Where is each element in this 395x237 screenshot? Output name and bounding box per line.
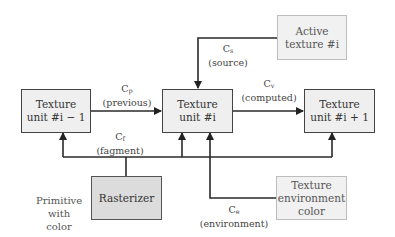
box-label-line2: unit #i + 1	[310, 111, 369, 124]
box-label-line1: Active	[285, 25, 339, 38]
description: (fagment)	[96, 145, 143, 156]
box-label-line1: Texture	[177, 98, 218, 111]
label-previous: Cp (previous)	[98, 83, 156, 109]
subscript: e	[236, 208, 240, 216]
box-label-line3: color	[278, 205, 346, 218]
symbol: C	[264, 78, 271, 89]
note-line2: with color	[36, 207, 82, 233]
texture-environment-color-box: Texture environment color	[276, 176, 347, 220]
texture-unit-previous-box: Texture unit #i − 1	[21, 89, 91, 133]
texture-unit-current-box: Texture unit #i	[162, 89, 233, 133]
rasterizer-box: Rasterizer	[91, 176, 162, 220]
box-label-line2: environment	[278, 192, 346, 205]
box-label-line1: Texture	[310, 98, 369, 111]
description: (previous)	[103, 97, 152, 108]
symbol: C	[121, 83, 128, 94]
label-computed: Cv (computed)	[238, 78, 300, 104]
symbol: C	[223, 43, 230, 54]
label-environment: Ce (environment)	[198, 204, 270, 230]
box-label-line1: Texture	[278, 179, 346, 192]
symbol: C	[228, 204, 235, 215]
texture-pipeline-diagram: Texture unit #i − 1 Texture unit #i Text…	[0, 0, 395, 237]
subscript: v	[271, 82, 275, 90]
description: (environment)	[200, 218, 269, 229]
box-label-line2: unit #i	[177, 111, 218, 124]
primitive-with-color-note: Primitive with color	[36, 194, 82, 233]
box-label-line1: Texture	[27, 98, 86, 111]
subscript: p	[129, 87, 133, 95]
subscript: s	[230, 47, 233, 55]
label-source: Cs (source)	[203, 43, 253, 69]
box-label-line2: texture #i	[285, 38, 339, 51]
description: (computed)	[241, 92, 296, 103]
box-label-line2: unit #i − 1	[27, 111, 86, 124]
texture-unit-next-box: Texture unit #i + 1	[304, 89, 375, 133]
description: (source)	[208, 57, 248, 68]
active-texture-box: Active texture #i	[277, 15, 347, 60]
subscript: f	[122, 135, 124, 143]
arrow-environment	[210, 133, 276, 198]
note-line1: Primitive	[36, 194, 82, 207]
box-label-line1: Rasterizer	[99, 192, 154, 205]
label-fragment: Cf (fagment)	[92, 131, 148, 157]
